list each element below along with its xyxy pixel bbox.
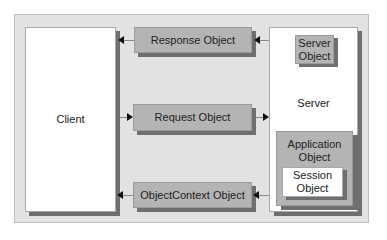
- server-object-line1: Server: [298, 37, 330, 50]
- arrow-left-icon: [118, 36, 124, 44]
- server-label: Server: [270, 97, 357, 110]
- client-box: Client: [25, 27, 116, 212]
- client-label: Client: [56, 113, 84, 126]
- session-object-line2: Object: [297, 182, 329, 195]
- response-object-label: Response Object: [151, 34, 235, 47]
- session-object-box: Session Object: [282, 167, 343, 197]
- server-object-line2: Object: [299, 50, 331, 63]
- request-object-label: Request Object: [155, 111, 231, 124]
- session-object-line1: Session: [293, 169, 332, 182]
- application-object-line1: Application: [288, 138, 342, 151]
- arrow-left-icon: [254, 36, 260, 44]
- server-object-box: Server Object: [295, 35, 334, 64]
- arrow-left-icon: [253, 191, 259, 199]
- arrow-left-icon: [117, 191, 123, 199]
- arrow-right-icon: [127, 113, 133, 121]
- response-object-box: Response Object: [134, 27, 252, 53]
- objectcontext-object-box: ObjectContext Object: [133, 182, 252, 208]
- application-object-line2: Object: [299, 151, 331, 164]
- request-object-box: Request Object: [133, 104, 252, 131]
- objectcontext-line-left: [122, 195, 133, 196]
- objectcontext-object-label: ObjectContext Object: [140, 189, 245, 202]
